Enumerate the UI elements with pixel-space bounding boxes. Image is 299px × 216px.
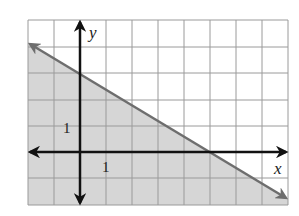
inequality-graph: y x 1 1 <box>0 0 299 216</box>
x-tick-label: 1 <box>102 159 110 175</box>
y-axis-label: y <box>87 23 97 42</box>
x-axis-label: x <box>273 159 282 178</box>
y-tick-label: 1 <box>63 120 71 136</box>
